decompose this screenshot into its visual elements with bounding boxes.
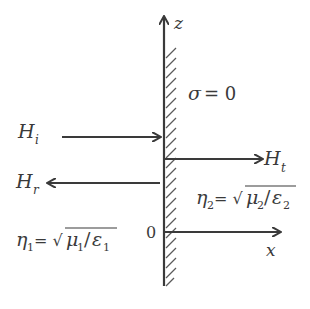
z-axis-label: z	[173, 13, 184, 33]
svg-text:2: 2	[257, 199, 264, 212]
boundary-condition: σ = 0	[188, 82, 236, 104]
svg-text:= √: = √	[214, 189, 243, 208]
svg-text:/: /	[84, 228, 91, 250]
svg-text:1: 1	[103, 241, 110, 254]
svg-text:1: 1	[77, 241, 84, 254]
svg-text:= √: = √	[34, 231, 63, 250]
svg-text:i: i	[35, 133, 39, 147]
svg-text:t: t	[281, 161, 286, 175]
reflected-wave-label: H r	[15, 170, 40, 197]
medium2-impedance: η 2 = √ μ 2 / ε 2	[196, 186, 296, 212]
svg-text:H: H	[17, 120, 35, 142]
origin-label: 0	[146, 223, 156, 242]
x-axis-label: x	[266, 240, 276, 260]
svg-text:r: r	[33, 183, 40, 197]
svg-text:H: H	[263, 147, 281, 169]
transmitted-wave-label: H t	[263, 147, 286, 175]
svg-text:/: /	[264, 186, 271, 208]
medium1-impedance: η 1 = √ μ 1 / ε 1	[16, 228, 117, 254]
svg-text:= 0: = 0	[204, 83, 236, 104]
svg-text:2: 2	[283, 199, 290, 212]
svg-text:ε: ε	[272, 186, 282, 208]
svg-text:2: 2	[207, 199, 214, 212]
incident-wave-label: H i	[17, 120, 39, 147]
svg-text:σ: σ	[188, 82, 202, 104]
svg-text:ε: ε	[92, 228, 102, 250]
boundary-hatching	[166, 48, 176, 286]
svg-text:1: 1	[27, 241, 34, 254]
svg-text:H: H	[15, 170, 33, 192]
interface-diagram: z x 0 σ = 0 H i H r H t η 2 = √ μ 2 / ε …	[0, 0, 310, 309]
